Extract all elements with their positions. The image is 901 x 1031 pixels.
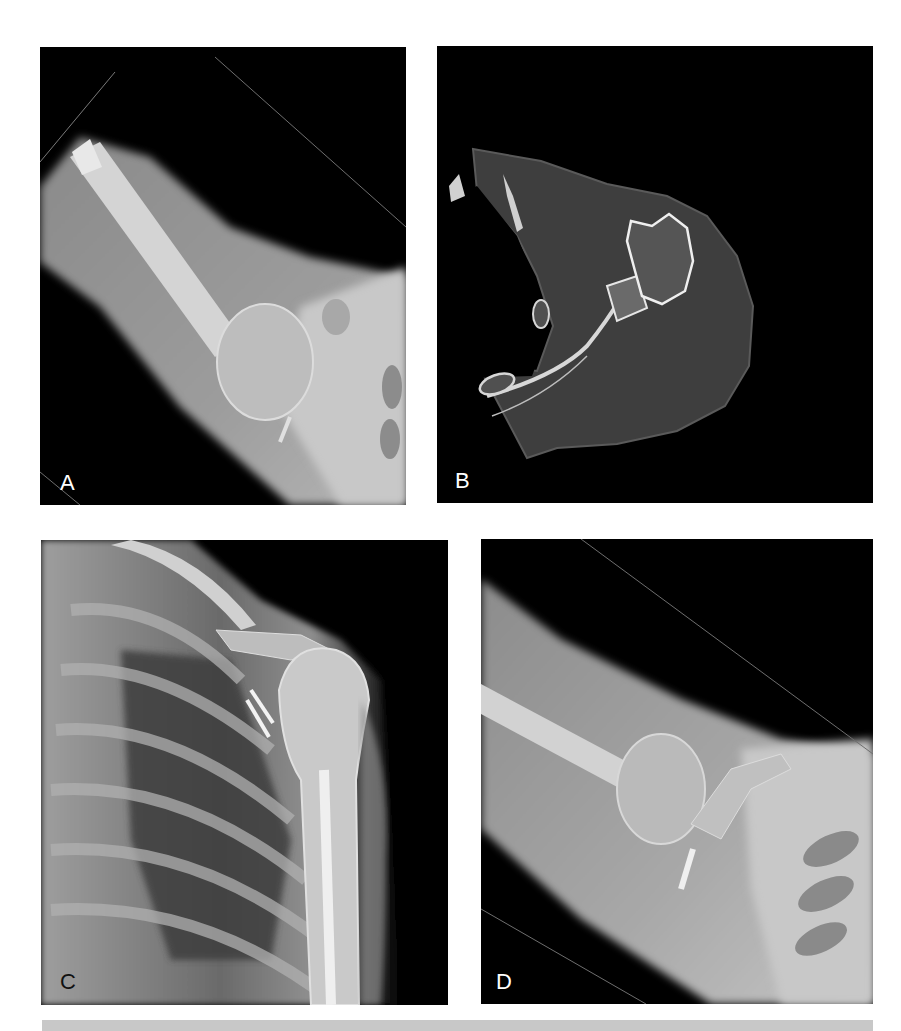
- panel-c-radiograph: C: [41, 540, 448, 1005]
- panel-label-d: D: [496, 971, 512, 993]
- caption-bar: [42, 1020, 873, 1031]
- panel-label-a: A: [60, 472, 75, 494]
- xray-image-a: [40, 47, 406, 505]
- panel-b-ct: B: [437, 46, 873, 503]
- panel-label-b: B: [455, 470, 470, 492]
- panel-d-radiograph: D: [481, 539, 873, 1004]
- panel-label-c: C: [60, 971, 76, 993]
- xray-image-c: [41, 540, 448, 1005]
- xray-image-d: [481, 539, 873, 1004]
- ct-image-b: [437, 46, 873, 503]
- panel-a-radiograph: A: [40, 47, 406, 505]
